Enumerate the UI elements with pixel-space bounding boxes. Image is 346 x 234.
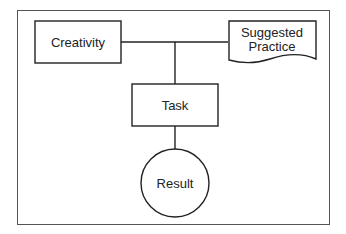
result-label: Result	[157, 176, 194, 191]
task-label: Task	[162, 98, 189, 113]
node-creativity: Creativity	[35, 21, 121, 63]
suggested-practice-label-line2: Practice	[249, 39, 296, 54]
diagram-canvas: Creativity Suggested Practice Task Resul…	[0, 0, 346, 234]
creativity-label: Creativity	[51, 35, 106, 50]
suggested-practice-label-line1: Suggested	[241, 25, 303, 40]
node-result: Result	[141, 149, 209, 217]
node-suggested-practice: Suggested Practice	[229, 21, 316, 63]
node-task: Task	[132, 84, 218, 126]
